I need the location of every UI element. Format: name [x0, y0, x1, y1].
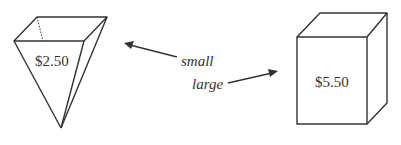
size-annotations: small large — [124, 41, 278, 92]
box-top-face — [297, 13, 387, 37]
arrow-head-icon — [124, 41, 134, 49]
diagram-canvas: $2.50 small large $5.50 — [0, 0, 401, 145]
pyramid-hidden-edge — [37, 17, 43, 41]
arrow-head-icon — [268, 69, 278, 77]
pyramid-top-face — [14, 17, 107, 41]
box-container: $5.50 — [297, 13, 387, 124]
pyramid-edge — [61, 17, 107, 128]
box-price-label: $5.50 — [315, 74, 349, 90]
box-side-face — [367, 13, 387, 124]
large-label: large — [192, 76, 223, 92]
pyramid-container: $2.50 — [14, 17, 107, 128]
large-arrow-line — [228, 73, 272, 83]
small-label: small — [181, 53, 214, 69]
small-arrow-line — [130, 45, 177, 57]
pyramid-price-label: $2.50 — [35, 53, 69, 69]
